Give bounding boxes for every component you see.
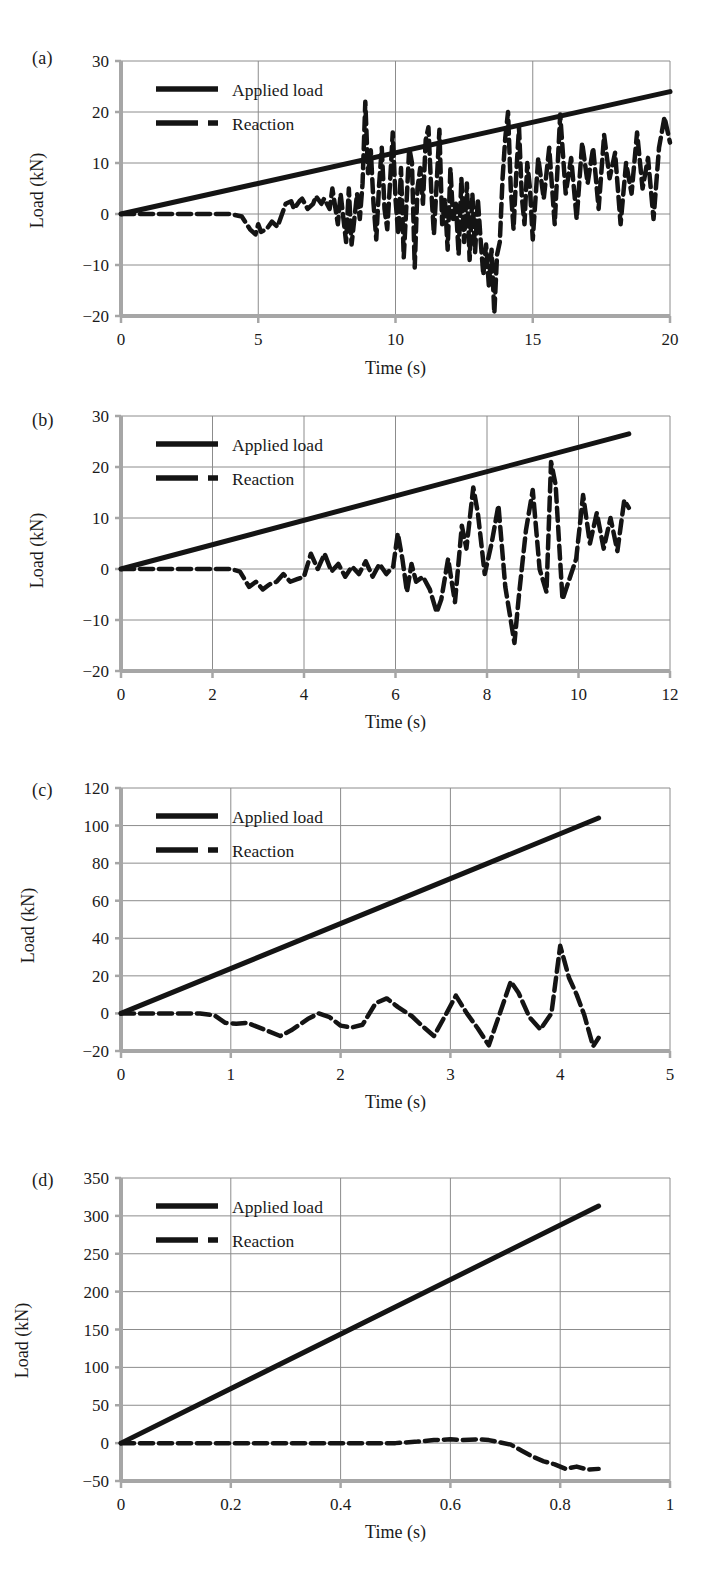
svg-text:1: 1 <box>227 1065 236 1084</box>
panel-c: (c) Load (kN) Time (s) −2002040608010012… <box>0 755 715 1150</box>
svg-text:30: 30 <box>92 52 109 71</box>
svg-text:2: 2 <box>336 1065 345 1084</box>
svg-text:Applied load: Applied load <box>232 1197 323 1217</box>
svg-text:0: 0 <box>101 1434 110 1453</box>
svg-text:0: 0 <box>101 560 110 579</box>
svg-text:20: 20 <box>92 458 109 477</box>
svg-text:0.2: 0.2 <box>220 1495 241 1514</box>
svg-text:250: 250 <box>84 1245 110 1264</box>
svg-text:40: 40 <box>92 929 109 948</box>
svg-text:5: 5 <box>254 330 263 349</box>
svg-text:100: 100 <box>84 1358 110 1377</box>
svg-text:4: 4 <box>300 685 309 704</box>
svg-text:120: 120 <box>84 779 110 798</box>
svg-text:0: 0 <box>101 1004 110 1023</box>
svg-text:350: 350 <box>84 1169 110 1188</box>
svg-text:20: 20 <box>92 967 109 986</box>
svg-text:2: 2 <box>208 685 217 704</box>
panel-b-plot: −20−100102030024681012Applied loadReacti… <box>0 385 715 760</box>
svg-text:4: 4 <box>556 1065 565 1084</box>
svg-text:200: 200 <box>84 1283 110 1302</box>
svg-text:Applied load: Applied load <box>232 807 323 827</box>
svg-text:10: 10 <box>92 509 109 528</box>
svg-text:Reaction: Reaction <box>232 841 294 861</box>
svg-text:3: 3 <box>446 1065 455 1084</box>
svg-text:0.6: 0.6 <box>440 1495 461 1514</box>
svg-text:Reaction: Reaction <box>232 1231 294 1251</box>
svg-text:6: 6 <box>391 685 400 704</box>
svg-text:8: 8 <box>483 685 492 704</box>
figure-multi-panel-load-time: (a) Load (kN) Time (s) −20−1001020300510… <box>0 0 715 1579</box>
panel-c-plot: −20020406080100120012345Applied loadReac… <box>0 755 715 1150</box>
svg-text:20: 20 <box>92 103 109 122</box>
panel-b: (b) Load (kN) Time (s) −20−1001020300246… <box>0 385 715 760</box>
svg-text:0: 0 <box>117 685 126 704</box>
svg-text:10: 10 <box>570 685 587 704</box>
svg-text:20: 20 <box>662 330 679 349</box>
panel-a: (a) Load (kN) Time (s) −20−1001020300510… <box>0 0 715 390</box>
svg-text:Reaction: Reaction <box>232 114 294 134</box>
panel-d-plot: −5005010015020025030035000.20.40.60.81Ap… <box>0 1145 715 1579</box>
svg-text:−10: −10 <box>82 256 109 275</box>
svg-text:−20: −20 <box>82 1042 109 1061</box>
svg-text:15: 15 <box>524 330 541 349</box>
svg-text:100: 100 <box>84 817 110 836</box>
svg-text:0.4: 0.4 <box>330 1495 352 1514</box>
svg-text:12: 12 <box>662 685 679 704</box>
svg-text:−50: −50 <box>82 1472 109 1491</box>
svg-text:10: 10 <box>92 154 109 173</box>
svg-text:0: 0 <box>101 205 110 224</box>
svg-text:80: 80 <box>92 854 109 873</box>
svg-text:−20: −20 <box>82 662 109 681</box>
svg-text:−10: −10 <box>82 611 109 630</box>
svg-text:0.8: 0.8 <box>550 1495 571 1514</box>
panel-a-plot: −20−10010203005101520Applied loadReactio… <box>0 0 715 390</box>
svg-text:Applied load: Applied load <box>232 435 323 455</box>
svg-text:5: 5 <box>666 1065 675 1084</box>
svg-text:Applied load: Applied load <box>232 80 323 100</box>
svg-text:−20: −20 <box>82 307 109 326</box>
svg-text:1: 1 <box>666 1495 675 1514</box>
svg-text:0: 0 <box>117 330 126 349</box>
svg-text:30: 30 <box>92 407 109 426</box>
svg-text:10: 10 <box>387 330 404 349</box>
svg-text:0: 0 <box>117 1495 126 1514</box>
svg-text:Reaction: Reaction <box>232 469 294 489</box>
svg-text:150: 150 <box>84 1321 110 1340</box>
svg-text:60: 60 <box>92 892 109 911</box>
svg-text:50: 50 <box>92 1396 109 1415</box>
svg-text:300: 300 <box>84 1207 110 1226</box>
panel-d: (d) Load (kN) Time (s) −5005010015020025… <box>0 1145 715 1579</box>
svg-text:0: 0 <box>117 1065 126 1084</box>
